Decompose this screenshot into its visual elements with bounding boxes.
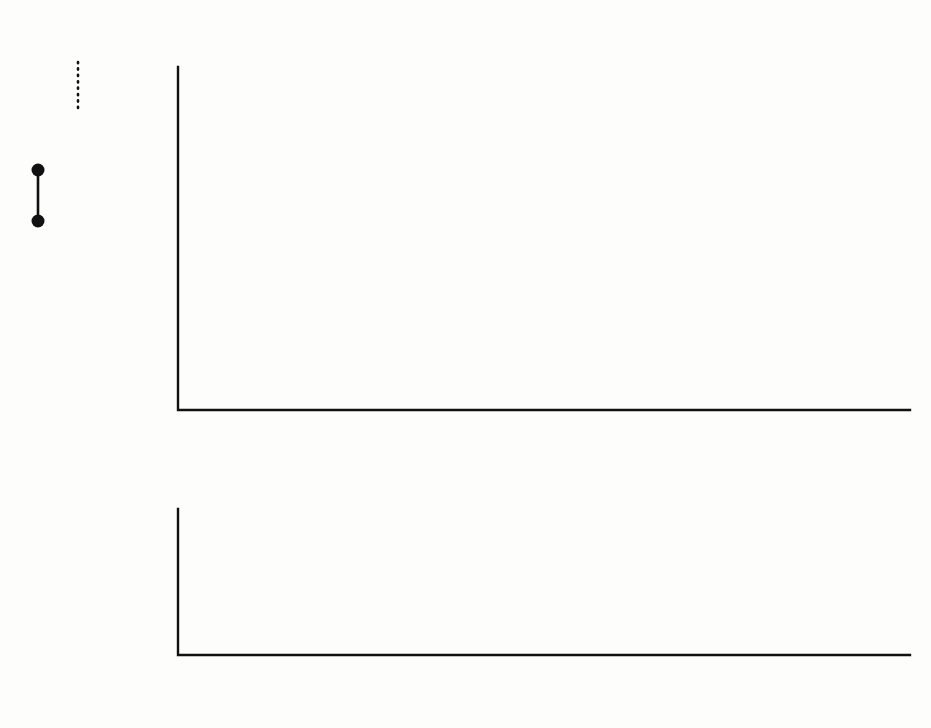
bottom-panel: [178, 509, 910, 655]
top-panel-axis-lines: [178, 67, 910, 410]
top-panel: [32, 62, 911, 410]
legend-filled-circle-icon-lower: [32, 215, 45, 228]
bottom-panel-axes: [178, 509, 910, 655]
legend-filled-circle-icon-upper: [32, 164, 45, 177]
scientific-figure-svg: [0, 0, 931, 728]
top-panel-axes: [178, 67, 910, 410]
legend-natality-symbol: [32, 164, 45, 228]
bottom-panel-axis-lines: [178, 509, 910, 655]
figure-root: [0, 0, 931, 728]
